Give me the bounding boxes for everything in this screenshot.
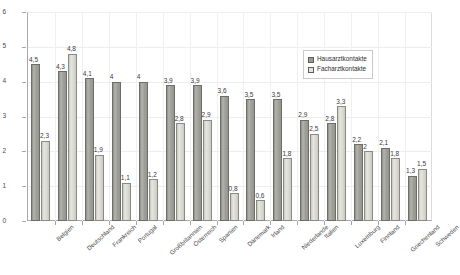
x-axis-category-label: Spanien: [218, 224, 239, 244]
bar-value-label: 4: [110, 74, 114, 81]
x-axis-category-label: Belgien: [55, 224, 75, 242]
y-axis-tick-label: 6: [0, 9, 6, 16]
bar-secondary[interactable]: [41, 141, 50, 221]
bar-value-label: 2,5: [309, 126, 318, 133]
x-axis-category-label: Deutschland: [86, 224, 116, 252]
bar-group: 3,51,8: [270, 12, 297, 221]
bar-value-label: 3,5: [244, 92, 253, 99]
bar-secondary[interactable]: [176, 123, 185, 221]
bar-value-label: 2,3: [40, 133, 49, 140]
bar-value-label: 4,5: [29, 57, 38, 64]
category-separator: [136, 12, 137, 221]
bar-group: 1,31,5: [405, 12, 432, 221]
bar-group: 2,11,8: [378, 12, 405, 221]
bar-value-label: 1,8: [282, 151, 291, 158]
category-separator: [297, 12, 298, 221]
category-separator: [163, 12, 164, 221]
bar-secondary[interactable]: [256, 200, 265, 221]
bar-value-label: 2,9: [202, 112, 211, 119]
bar-secondary[interactable]: [95, 155, 104, 221]
y-axis-tick-label: 1: [0, 183, 6, 190]
bar-value-label: 0,6: [255, 193, 264, 200]
y-axis-tick-label: 5: [0, 43, 6, 50]
bar-value-label: 2,8: [325, 116, 334, 123]
bar-primary[interactable]: [85, 78, 94, 221]
bar-group: 4,52,3: [28, 12, 55, 221]
bar-primary[interactable]: [193, 85, 202, 221]
legend-swatch-hausarztkontakte-icon: [308, 57, 314, 63]
bar-value-label: 1,3: [406, 168, 415, 175]
bar-value-label: 1,1: [121, 175, 130, 182]
bar-secondary[interactable]: [418, 169, 427, 221]
bar-secondary[interactable]: [203, 120, 212, 221]
bar-group: 3,92,8: [163, 12, 190, 221]
bar-primary[interactable]: [112, 82, 121, 221]
bar-value-label: 1,9: [94, 147, 103, 154]
bar-primary[interactable]: [58, 71, 67, 221]
bar-group: 2,83,3: [324, 12, 351, 221]
bar-secondary[interactable]: [391, 158, 400, 221]
category-separator: [405, 12, 406, 221]
legend: Hausarztkontakte Facharztkontakte: [303, 50, 373, 79]
bar-secondary[interactable]: [68, 54, 77, 221]
bar-primary[interactable]: [381, 148, 390, 221]
bar-group: 3,92,9: [190, 12, 217, 221]
y-axis-tick-mark: [22, 186, 26, 187]
bar-secondary[interactable]: [230, 193, 239, 221]
y-axis-tick-mark: [22, 82, 26, 83]
bar-primary[interactable]: [354, 144, 363, 221]
category-separator: [351, 12, 352, 221]
category-separator: [55, 12, 56, 221]
y-axis-tick-label: 3: [0, 113, 6, 120]
bar-value-label: 2,8: [175, 116, 184, 123]
bar-primary[interactable]: [408, 176, 417, 221]
bar-value-label: 1,8: [390, 151, 399, 158]
x-axis-category-labels: BelgienDeutschlandFrankreichPortugalGroß…: [28, 224, 432, 275]
bar-group: 3,60,8: [217, 12, 244, 221]
bar-value-label: 4,3: [56, 64, 65, 71]
bar-primary[interactable]: [220, 96, 229, 221]
bar-value-label: 1,5: [417, 161, 426, 168]
bar-group: 2,92,5: [297, 12, 324, 221]
x-axis-category-label: Finnland: [379, 224, 401, 245]
bar-value-label: 3,9: [164, 78, 173, 85]
bar-secondary[interactable]: [122, 183, 131, 221]
y-axis-tick-mark: [22, 47, 26, 48]
bar-primary[interactable]: [246, 99, 255, 221]
bar-value-label: 0,8: [229, 186, 238, 193]
bar-secondary[interactable]: [337, 106, 346, 221]
category-separator: [217, 12, 218, 221]
bar-secondary[interactable]: [149, 179, 158, 221]
x-axis-category-label: Portugal: [137, 224, 158, 244]
bar-value-label: 2,2: [352, 137, 361, 144]
category-separator: [243, 12, 244, 221]
x-axis-category-label: Irland: [270, 224, 286, 239]
bar-group: 41,2: [136, 12, 163, 221]
legend-item-hausarztkontakte[interactable]: Hausarztkontakte: [308, 55, 367, 64]
legend-item-facharztkontakte[interactable]: Facharztkontakte: [308, 65, 367, 74]
bar-group: 41,1: [109, 12, 136, 221]
bar-primary[interactable]: [166, 85, 175, 221]
bar-value-label: 4,1: [83, 71, 92, 78]
bar-value-label: 2,1: [379, 140, 388, 147]
bar-value-label: 1,2: [148, 172, 157, 179]
x-axis-category-label: Luxemburg: [354, 224, 381, 249]
y-axis-tick-label: 0: [0, 218, 6, 225]
bar-value-label: 3,5: [271, 92, 280, 99]
bar-primary[interactable]: [300, 120, 309, 221]
bar-secondary[interactable]: [283, 158, 292, 221]
bar-value-label: 4,8: [67, 46, 76, 53]
category-separator: [190, 12, 191, 221]
bar-value-label: 3,6: [218, 88, 227, 95]
bar-primary[interactable]: [327, 123, 336, 221]
bar-secondary[interactable]: [310, 134, 319, 221]
bar-primary[interactable]: [139, 82, 148, 221]
bar-primary[interactable]: [31, 64, 40, 221]
bar-primary[interactable]: [273, 99, 282, 221]
y-axis-tick-mark: [22, 151, 26, 152]
bar-value-label: 2,9: [298, 112, 307, 119]
bar-secondary[interactable]: [364, 151, 373, 221]
bars-layer: 4,52,34,34,84,11,941,141,23,92,83,92,93,…: [28, 12, 432, 221]
bar-group: 2,22: [351, 12, 378, 221]
category-separator: [109, 12, 110, 221]
